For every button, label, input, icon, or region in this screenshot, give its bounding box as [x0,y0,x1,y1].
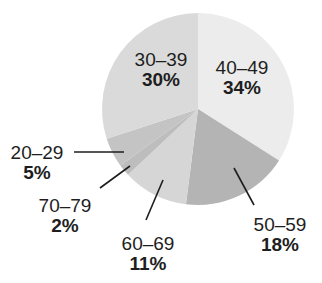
label-percent: 2% [30,216,100,236]
label-percent: 11% [113,254,183,274]
label-category: 50–59 [245,215,315,235]
label-50-59: 50–59 18% [245,215,315,255]
label-40-49: 40–49 34% [209,58,275,98]
label-percent: 30% [128,70,194,90]
label-percent: 5% [2,163,72,183]
label-category: 30–39 [128,50,194,70]
label-percent: 18% [245,235,315,255]
label-30-39: 30–39 30% [128,50,194,90]
leader-70-79 [100,166,130,188]
label-category: 40–49 [209,58,275,78]
label-category: 20–29 [2,143,72,163]
label-70-79: 70–79 2% [30,196,100,236]
label-category: 70–79 [30,196,100,216]
label-percent: 34% [209,78,275,98]
label-20-29: 20–29 5% [2,143,72,183]
label-60-69: 60–69 11% [113,234,183,274]
label-category: 60–69 [113,234,183,254]
